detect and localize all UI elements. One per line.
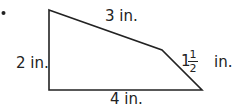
left-side-label: 2 in. [16, 56, 49, 71]
right-label-unit: in. [214, 55, 232, 70]
top-side-label: 3 in. [105, 9, 138, 24]
bottom-side-label: 4 in. [110, 92, 143, 107]
right-label-numerator: 1 [188, 49, 198, 60]
shape-diagram: 3 in. 2 in. 4 in. 1 1 2 in. [0, 0, 239, 111]
right-label-denominator: 2 [188, 63, 198, 74]
bullet-icon [2, 11, 6, 15]
